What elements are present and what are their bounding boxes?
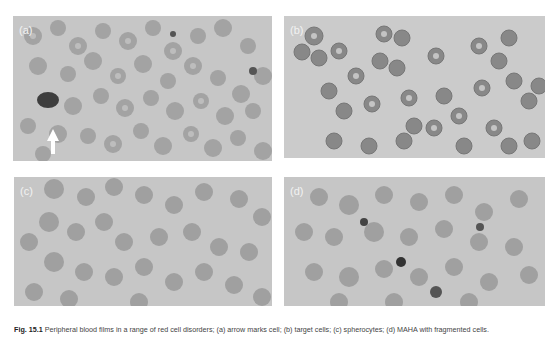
caption-text: Peripheral blood films in a range of red… bbox=[45, 325, 489, 334]
smear-c-graphic bbox=[14, 177, 272, 306]
smear-d-graphic bbox=[284, 177, 545, 306]
panel-c-label: (c) bbox=[20, 185, 33, 197]
figure-caption: Fig. 15.1 Peripheral blood films in a ra… bbox=[14, 325, 549, 334]
panel-a-label: (a) bbox=[19, 24, 32, 36]
panel-c-image: (c) bbox=[14, 177, 272, 306]
panel-b-image: (b) bbox=[284, 16, 545, 158]
panel-d-label: (d) bbox=[290, 185, 303, 197]
smear-b-graphic bbox=[284, 16, 545, 158]
figure-number: Fig. 15.1 bbox=[14, 325, 43, 334]
panel-a-image: (a) bbox=[13, 16, 272, 161]
panel-d-image: (d) bbox=[284, 177, 545, 306]
smear-a-graphic bbox=[13, 16, 272, 161]
panel-b-label: (b) bbox=[290, 24, 303, 36]
